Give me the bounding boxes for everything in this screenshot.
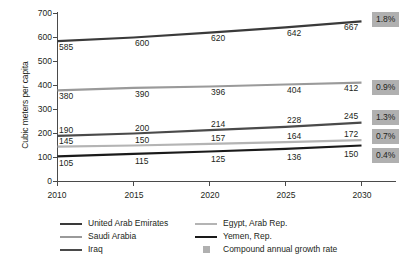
cagr-badge-egypt: 0.7% <box>372 129 399 144</box>
value-label-saudi-2020: 396 <box>211 88 225 97</box>
value-label-yemen-2030: 150 <box>344 150 358 159</box>
series-line-united-arab-emirates <box>58 21 362 41</box>
line-chart: Cubic meters per capita 700 600 500 400 … <box>0 0 409 265</box>
cagr-badge-saudi: 0.9% <box>372 80 399 95</box>
value-label-saudi-2025: 404 <box>287 86 301 95</box>
legend-label: Saudi Arabia <box>88 231 136 242</box>
value-label-iraq-2030: 245 <box>344 112 358 121</box>
legend-swatch-line-icon <box>195 223 217 225</box>
x-tick-2010: 2010 <box>37 191 77 200</box>
x-tick-2015: 2015 <box>114 191 154 200</box>
legend-label: Compound annual growth rate <box>223 244 337 255</box>
x-tick-2030: 2030 <box>342 191 382 200</box>
value-label-uae-2030: 667 <box>344 23 358 32</box>
value-label-yemen-2015: 115 <box>135 157 149 166</box>
x-tick-2025: 2025 <box>266 191 306 200</box>
series-line-iraq <box>58 123 362 136</box>
legend-label: Egypt, Arab Rep. <box>223 218 287 229</box>
value-label-iraq-2020: 214 <box>211 120 225 129</box>
series-line-yemen-rep <box>58 146 362 157</box>
legend-swatch-square-icon <box>203 246 210 253</box>
value-label-iraq-2015: 200 <box>135 124 149 133</box>
series-line-egypt-arab-rep <box>58 140 362 147</box>
value-label-uae-2010: 585 <box>59 43 73 52</box>
value-label-saudi-2010: 380 <box>59 92 73 101</box>
value-label-uae-2020: 620 <box>211 34 225 43</box>
value-label-yemen-2010: 105 <box>59 159 73 168</box>
y-axis-ticks <box>53 14 57 182</box>
value-label-egypt-2030: 172 <box>344 130 358 139</box>
x-tick-2020: 2020 <box>190 191 230 200</box>
series-line-saudi-arabia <box>58 83 362 91</box>
value-label-saudi-2015: 390 <box>135 90 149 99</box>
legend-label: Iraq <box>88 244 103 255</box>
value-label-yemen-2020: 125 <box>211 155 225 164</box>
value-label-egypt-2015: 150 <box>135 136 149 145</box>
value-label-uae-2025: 642 <box>287 29 301 38</box>
legend-swatch-line-icon <box>60 223 82 226</box>
value-label-iraq-2010: 190 <box>59 126 73 135</box>
value-label-egypt-2025: 164 <box>287 132 301 141</box>
value-label-egypt-2020: 157 <box>211 134 225 143</box>
value-label-yemen-2025: 136 <box>287 153 301 162</box>
value-label-uae-2015: 600 <box>135 39 149 48</box>
cagr-badge-iraq: 1.3% <box>372 110 399 125</box>
legend-label: United Arab Emirates <box>88 218 168 229</box>
legend-swatch-line-icon <box>60 236 82 238</box>
legend-swatch-line-icon <box>195 236 217 239</box>
value-label-saudi-2030: 412 <box>344 84 358 93</box>
value-label-egypt-2010: 145 <box>59 137 73 146</box>
x-axis-ticks <box>58 182 362 187</box>
value-label-iraq-2025: 228 <box>287 116 301 125</box>
legend: United Arab Emirates Saudi Arabia Iraq E… <box>60 218 405 262</box>
legend-label: Yemen, Rep. <box>223 231 272 242</box>
cagr-badge-uae: 1.8% <box>372 12 399 27</box>
cagr-badge-yemen: 0.4% <box>372 148 399 163</box>
legend-swatch-line-icon <box>60 249 82 252</box>
